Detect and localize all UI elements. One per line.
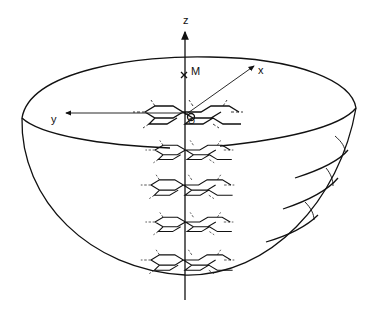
hexagonal-layers [133, 100, 243, 274]
layer-2 [145, 140, 233, 162]
z-axis-label: z [183, 14, 189, 26]
y-axis-label: y [51, 113, 57, 125]
hemisphere-diagram: z x y M O [0, 0, 370, 313]
layer-4 [145, 212, 233, 234]
bowl-rim-front-left [22, 118, 170, 148]
layer-5 [141, 250, 235, 274]
point-m-marker [181, 72, 187, 78]
bowl-rim-front-right [220, 108, 356, 146]
origin-label: O [188, 116, 195, 126]
bowl-rim-back [22, 57, 356, 118]
bowl-layer-arc [305, 202, 314, 220]
bowl [22, 57, 356, 275]
bowl-layer-line [266, 215, 318, 242]
x-axis-label: x [258, 64, 264, 76]
bowl-layer-arc [335, 136, 345, 152]
bowl-layer-line [295, 150, 348, 178]
point-m-label: M [191, 65, 200, 77]
layer-3 [141, 175, 235, 199]
